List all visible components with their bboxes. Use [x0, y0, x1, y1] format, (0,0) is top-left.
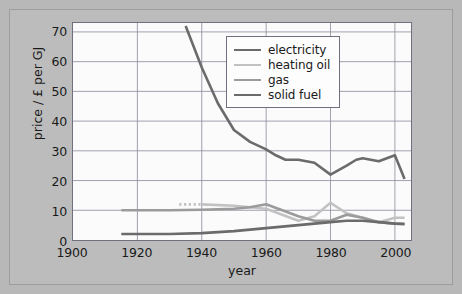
legend-swatch-icon: [234, 79, 261, 81]
y-tick-label: 10: [51, 204, 67, 219]
figure: 010203040506070 190019201940196019802000…: [0, 0, 462, 294]
y-tick-label: 40: [51, 114, 67, 129]
series-line-solid-fuel: [121, 221, 404, 234]
x-tick-label: 2000: [380, 245, 411, 260]
x-axis-ticks: 190019201940196019802000: [0, 245, 462, 265]
legend-swatch-icon: [234, 94, 261, 96]
legend-label: gas: [268, 73, 289, 87]
y-tick-label: 60: [51, 54, 67, 69]
x-tick-label: 1960: [251, 245, 282, 260]
x-tick-label: 1920: [121, 245, 152, 260]
series-line-heating-oil: [202, 203, 405, 222]
y-tick-label: 70: [51, 24, 67, 39]
legend-item: heating oil: [234, 57, 330, 72]
y-axis-label: price / £ per GJ: [30, 24, 45, 164]
legend-item: gas: [234, 72, 330, 87]
legend-swatch-icon: [234, 64, 261, 66]
legend-label: electricity: [268, 43, 326, 57]
x-tick-label: 1940: [186, 245, 217, 260]
legend-label: heating oil: [268, 58, 330, 72]
legend: electricityheating oilgassolid fuel: [226, 36, 340, 108]
y-tick-label: 20: [51, 174, 67, 189]
legend-item: solid fuel: [234, 87, 330, 102]
x-tick-label: 1900: [56, 245, 87, 260]
x-axis-label: year: [72, 263, 412, 278]
y-tick-label: 50: [51, 84, 67, 99]
y-tick-label: 30: [51, 144, 67, 159]
x-tick-label: 1980: [316, 245, 347, 260]
legend-swatch-icon: [234, 49, 261, 51]
legend-label: solid fuel: [268, 88, 321, 102]
legend-item: electricity: [234, 42, 330, 57]
